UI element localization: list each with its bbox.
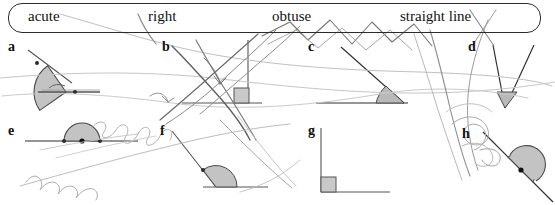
worksheet-canvas: acute right obtuse straight line a b c d… [0,0,555,205]
word-bank-item-obtuse[interactable]: obtuse [272,7,311,25]
diagram-label-e: e [8,124,14,138]
diagram-label-d: d [468,40,476,54]
diagram-label-c: c [308,40,314,54]
diagram-label-b: b [162,40,170,54]
word-bank-item-right[interactable]: right [148,7,176,25]
diagram-label-a: a [8,40,15,54]
word-bank-item-acute[interactable]: acute [28,7,60,25]
diagram-label-h: h [462,127,470,141]
word-bank-item-straight-line[interactable]: straight line [400,7,471,25]
diagram-label-f: f [160,124,165,138]
diagram-label-g: g [308,124,315,138]
